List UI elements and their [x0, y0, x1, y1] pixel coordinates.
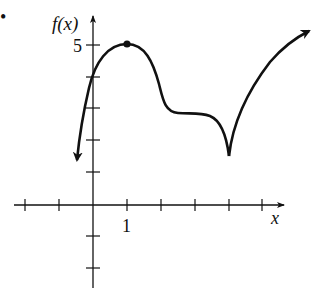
bullet-marker: • [0, 7, 6, 27]
local-max-point [123, 40, 130, 47]
x-axis-label: x [270, 208, 279, 228]
curve-middle-branch [127, 44, 229, 156]
x-tick-label-1: 1 [122, 216, 131, 236]
function-graph: • f(x) 5 1 x [0, 0, 313, 296]
y-axis-label: f(x) [52, 13, 78, 35]
curve-right-branch [229, 31, 309, 156]
y-tick-label-5: 5 [73, 36, 82, 56]
curve-left-branch [77, 44, 127, 160]
